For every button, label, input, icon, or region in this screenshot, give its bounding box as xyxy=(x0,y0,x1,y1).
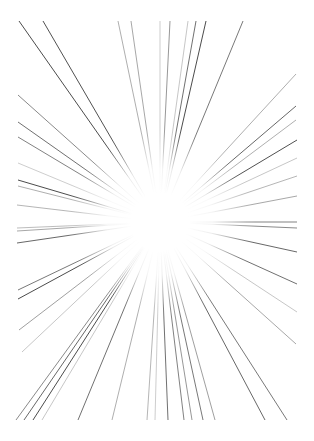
radial-burst-svg xyxy=(0,0,314,441)
center-fade-overlay xyxy=(0,0,314,441)
artwork-canvas xyxy=(0,0,314,441)
